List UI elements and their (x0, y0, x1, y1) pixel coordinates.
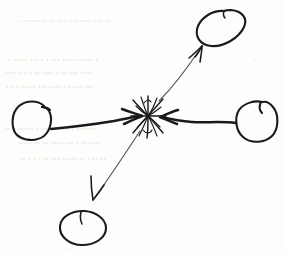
diagram-svg: • ••••• •• •• ••• • •••••• ••• •• • ••••… (0, 0, 283, 255)
ghost-line: • • • ••••• ••• •••• • ••••• ••• (6, 84, 94, 92)
ghost-line: ••••• •• •• ••••• •• • •• •••• (18, 140, 101, 148)
ghost-line: • ••••• •• •• ••• • •••••• ••• •• (20, 18, 111, 26)
sketch-canvas: • ••••• •• •• ••• • •••••• ••• •• • ••••… (0, 0, 283, 255)
ghost-line: •• • • • •• ••• ••••• •• • •• •• (20, 156, 106, 164)
ghost-line: •••• • • • •• •••• • •• ••• •••• (5, 70, 92, 78)
ghost-line: • ••••• ••• • • ••• •••• •••••• • (8, 57, 99, 65)
